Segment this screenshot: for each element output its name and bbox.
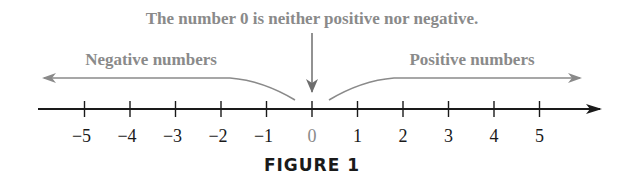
tick-label: −2 <box>208 126 227 146</box>
tick-label: −5 <box>72 126 91 146</box>
positive-direction-arrow-icon <box>329 78 580 100</box>
tick-label: 2 <box>399 126 408 146</box>
negative-numbers-label: Negative numbers <box>85 50 217 69</box>
figure-caption: FIGURE 1 <box>264 155 360 175</box>
tick-label: 3 <box>444 126 453 146</box>
tick-label: −4 <box>117 126 136 146</box>
tick-label: −3 <box>163 126 182 146</box>
tick-labels: −5−4−3−2−1012345 <box>72 126 544 146</box>
number-line-figure: The number 0 is neither positive nor neg… <box>0 0 625 190</box>
tick-label: 5 <box>535 126 544 146</box>
tick-label: −1 <box>254 126 273 146</box>
positive-numbers-label: Positive numbers <box>409 50 535 69</box>
tick-label: 4 <box>490 126 499 146</box>
tick-label: 0 <box>308 126 317 146</box>
zero-annotation-text: The number 0 is neither positive nor neg… <box>146 9 478 28</box>
negative-direction-arrow-icon <box>44 78 295 100</box>
tick-label: 1 <box>353 126 362 146</box>
